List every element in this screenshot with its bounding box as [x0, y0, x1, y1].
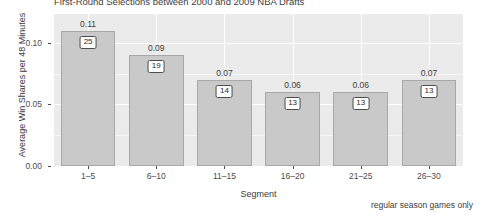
- x-tick-mark: [224, 166, 225, 169]
- bar-value-label: 0.06: [284, 80, 301, 90]
- x-tick-label: 21–25: [331, 171, 391, 181]
- bar-value-label: 0.09: [148, 43, 165, 53]
- gridline-horizontal-major: [54, 43, 463, 44]
- x-tick-mark: [293, 166, 294, 169]
- chart-caption: regular season games only: [371, 200, 473, 210]
- x-tick-mark: [156, 166, 157, 169]
- bar-value-label: 0.07: [421, 68, 438, 78]
- y-tick-mark: [48, 104, 51, 105]
- y-tick-mark: [48, 43, 51, 44]
- bar: [61, 31, 116, 166]
- bar-count-label: 25: [80, 36, 97, 49]
- y-axis-ticks: 0.000.050.10: [12, 0, 50, 216]
- x-tick-mark: [429, 166, 430, 169]
- chart-title: First-Round Selections between 2000 and …: [54, 0, 474, 9]
- x-tick-label: 1–5: [58, 171, 118, 181]
- bar-count-label: 13: [352, 97, 369, 110]
- x-tick-label: 26–30: [399, 171, 459, 181]
- bar-value-label: 0.06: [352, 80, 369, 90]
- gridline-horizontal-minor: [54, 74, 463, 75]
- bar-count-label: 14: [216, 85, 233, 98]
- bar-count-label: 13: [284, 97, 301, 110]
- x-tick-label: 11–15: [194, 171, 254, 181]
- y-tick-label: 0.05: [8, 100, 42, 108]
- bar-chart: First-Round Selections between 2000 and …: [0, 0, 481, 216]
- x-tick-label: 6–10: [126, 171, 186, 181]
- x-tick-mark: [361, 166, 362, 169]
- bar-value-label: 0.11: [80, 19, 96, 29]
- x-tick-label: 16–20: [263, 171, 323, 181]
- plot-panel: 251914131313: [54, 14, 463, 166]
- x-axis-ticks: 1–56–1011–1516–2021–2526–30: [54, 166, 463, 188]
- x-axis-title: Segment: [54, 189, 463, 199]
- y-tick-label: 0.10: [8, 39, 42, 47]
- bar-value-label: 0.07: [216, 68, 233, 78]
- bar-count-label: 19: [148, 60, 165, 73]
- y-tick-label: 0.00: [8, 162, 42, 170]
- x-tick-mark: [88, 166, 89, 169]
- y-tick-mark: [48, 166, 51, 167]
- bar-count-label: 13: [420, 85, 437, 98]
